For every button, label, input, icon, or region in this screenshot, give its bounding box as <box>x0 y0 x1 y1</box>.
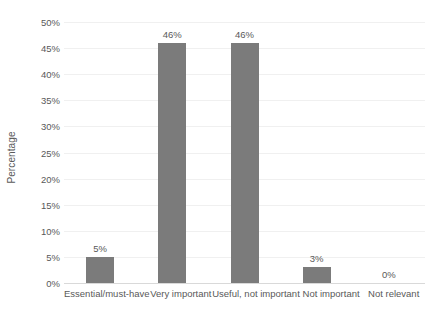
bar[interactable] <box>231 43 259 283</box>
y-axis-title: Percentage <box>0 0 22 315</box>
x-axis-tick-label: Not relevant <box>362 288 425 299</box>
bar-value-label: 3% <box>310 253 324 264</box>
y-axis-tick-label: 15% <box>26 199 60 210</box>
bar-slot: 0% <box>353 22 425 283</box>
y-axis-tick-label: 5% <box>26 251 60 262</box>
axis-baseline <box>64 283 425 284</box>
y-axis-tick-label: 35% <box>26 95 60 106</box>
x-axis-tick-label: Useful, not important <box>212 288 300 299</box>
x-axis-tick-labels: Essential/must-haveVery importantUseful,… <box>64 288 425 299</box>
y-axis-tick-label: 50% <box>26 17 60 28</box>
bar-chart: Percentage 0%5%10%15%20%25%30%35%40%45%5… <box>0 0 445 315</box>
x-axis-tick-label: Very important <box>150 288 213 299</box>
bar-value-label: 0% <box>382 269 396 280</box>
bar-slot: 3% <box>281 22 353 283</box>
y-axis-tick-label: 20% <box>26 173 60 184</box>
y-axis-tick-label: 30% <box>26 121 60 132</box>
bar[interactable] <box>86 257 114 283</box>
y-axis-tick-label: 0% <box>26 278 60 289</box>
y-axis-tick-label: 40% <box>26 69 60 80</box>
x-axis-tick-label: Essential/must-have <box>64 288 150 299</box>
bar-value-label: 5% <box>93 243 107 254</box>
y-axis-tick-label: 10% <box>26 225 60 236</box>
bar-value-label: 46% <box>163 29 182 40</box>
bar[interactable] <box>158 43 186 283</box>
x-axis-tick-label: Not important <box>300 288 363 299</box>
bar-slot: 46% <box>208 22 280 283</box>
bar-slot: 46% <box>136 22 208 283</box>
y-axis-tick-label: 25% <box>26 147 60 158</box>
y-axis-tick-label: 45% <box>26 43 60 54</box>
y-axis-tick-labels: 0%5%10%15%20%25%30%35%40%45%50% <box>22 22 60 283</box>
bar[interactable] <box>303 267 331 283</box>
bar-slot: 5% <box>64 22 136 283</box>
bar-value-label: 46% <box>235 29 254 40</box>
bar-series: 5%46%46%3%0% <box>64 22 425 283</box>
